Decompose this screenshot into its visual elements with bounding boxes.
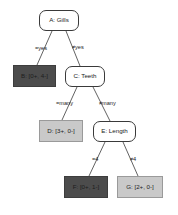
tree-node-d: D: [3+, 0-] — [39, 120, 83, 142]
tree-node-label: G: [2+, 0-] — [126, 184, 154, 190]
edge-label-c-d: =many — [56, 101, 73, 107]
tree-node-label: F: [0+, 1-] — [73, 184, 100, 190]
tree-node-label: D: [3+, 0-] — [47, 128, 74, 134]
tree-node-label: A: Gills — [49, 17, 69, 23]
tree-node-a: A: Gills — [39, 10, 79, 31]
tree-node-b: B: [0+, 4-] — [13, 65, 56, 87]
tree-node-c: C: Teeth — [65, 66, 105, 87]
edge-label-e-g: ≠4 — [130, 157, 136, 163]
tree-node-label: B: [0+, 4-] — [21, 73, 48, 79]
edge-label-a-b: =yes — [35, 46, 47, 52]
edge-label-e-f: =4 — [92, 157, 98, 163]
tree-node-label: E: Length — [101, 128, 128, 134]
edge-label-a-c: ≠yes — [72, 45, 84, 51]
decision-tree-diagram: A: GillsB: [0+, 4-]C: TeethD: [3+, 0-]E:… — [0, 0, 178, 215]
tree-node-label: C: Teeth — [74, 73, 97, 79]
tree-node-g: G: [2+, 0-] — [117, 176, 163, 198]
tree-node-e: E: Length — [93, 121, 136, 142]
edge-label-c-e: ≠many — [99, 101, 116, 107]
tree-node-f: F: [0+, 1-] — [64, 176, 108, 198]
